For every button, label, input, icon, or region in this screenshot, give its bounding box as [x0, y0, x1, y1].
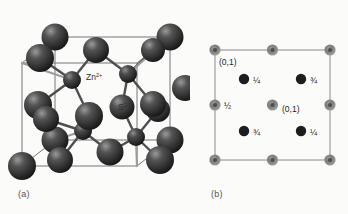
atom-sphere: [33, 106, 59, 132]
label-zn-cation: Zn2+: [86, 72, 102, 82]
atom-sphere: [8, 152, 36, 180]
atom-sphere-interior: [63, 71, 81, 89]
open-site-core: [213, 103, 217, 107]
open-site-core: [213, 48, 217, 52]
filled-site-circle: [296, 74, 306, 84]
label-open-leftmid: ½: [224, 101, 231, 111]
label-open-topleft: (0,1): [219, 57, 237, 67]
open-site-core: [271, 158, 275, 162]
filled-site-circle: [239, 74, 249, 84]
open-site-core: [271, 103, 275, 107]
figure-zinc-blende-structure: Zn2+ S2− (a): [0, 0, 348, 214]
label-filled-upperleft: ¼: [253, 75, 261, 85]
open-site-core: [213, 158, 217, 162]
panel-b-svg: (0,1) ½ (0,1) ¼ ¾ ¾ ¼: [190, 0, 348, 214]
atom-sphere: [47, 147, 73, 173]
atom-sphere: [75, 102, 103, 130]
atom-sphere: [26, 44, 54, 72]
atom-sphere: [83, 37, 109, 63]
panel-a-svg: Zn2+ S2−: [0, 0, 190, 214]
label-filled-lowerleft: ¾: [253, 127, 261, 137]
open-site-core: [328, 103, 332, 107]
label-filled-lowerright: ¼: [310, 127, 318, 137]
atom-sphere: [146, 146, 174, 174]
open-site-core: [328, 158, 332, 162]
panel-b-projection-2d: (0,1) ½ (0,1) ¼ ¾ ¾ ¼ (b): [190, 0, 348, 214]
atom-sphere: [141, 38, 165, 62]
panel-a-unit-cell-3d: Zn2+ S2− (a): [0, 0, 190, 214]
atom-spheres-back: [42, 24, 184, 154]
atom-spheres-front: [8, 44, 190, 180]
open-site-core: [328, 48, 332, 52]
label-open-center: (0,1): [282, 104, 300, 114]
atom-sphere-interior: [119, 65, 137, 83]
filled-site-circle: [296, 126, 306, 136]
caption-panel-a: (a): [18, 189, 30, 199]
caption-panel-b: (b): [211, 189, 223, 199]
filled-site-circle: [239, 126, 249, 136]
atom-sphere-interior: [127, 128, 145, 146]
atom-sphere: [97, 139, 124, 166]
atom-sphere: [172, 75, 190, 101]
label-filled-upperright: ¾: [310, 75, 318, 85]
open-site-core: [271, 48, 275, 52]
atom-sphere: [140, 91, 166, 117]
